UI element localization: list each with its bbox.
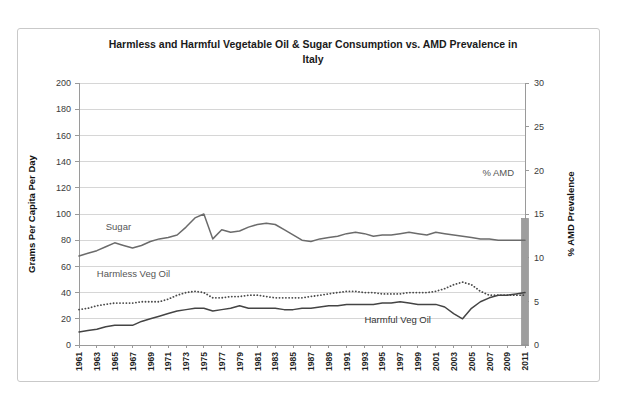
x-axis-tick-label: 1991 xyxy=(342,352,352,371)
y-axis-tick-label: 100 xyxy=(56,209,71,219)
x-axis-tick-label: 1977 xyxy=(217,352,227,371)
x-axis-tick-label: 1981 xyxy=(253,352,263,371)
x-axis-tick-label: 1989 xyxy=(324,352,334,371)
x-axis-tick-label: 1995 xyxy=(377,352,387,371)
x-axis-tick-label: 1985 xyxy=(288,352,298,371)
series-label-amd: % AMD xyxy=(482,167,514,178)
y-axis-tick-label: 60 xyxy=(61,262,71,272)
amd-bar xyxy=(522,218,529,345)
y-axis-tick-label: 0 xyxy=(66,340,71,350)
x-axis-tick-label: 1973 xyxy=(181,352,191,371)
x-axis-tick-label: 1999 xyxy=(413,352,423,371)
x-axis-tick-label: 1969 xyxy=(146,352,156,371)
series-label-harmless-veg-oil: Harmless Veg Oil xyxy=(97,268,170,279)
amd-prevalence-bar xyxy=(522,218,529,345)
y-axis-tick-label: 20 xyxy=(61,314,71,324)
y-axis-tick-label: 80 xyxy=(61,235,71,245)
chart-screenshot: Harmless and Harmful Vegetable Oil & Sug… xyxy=(0,0,617,405)
gridlines xyxy=(79,83,525,345)
x-axis-tick-label: 1967 xyxy=(128,352,138,371)
y-axis-tick-label: 160 xyxy=(56,131,71,141)
x-axis-tick-label: 2011 xyxy=(520,352,530,371)
x-axis-tick-label: 1979 xyxy=(235,352,245,371)
x-axis-tick-label: 1997 xyxy=(395,352,405,371)
series-label-sugar: Sugar xyxy=(106,221,131,232)
x-axis-tick-label: 1987 xyxy=(306,352,316,371)
x-axis-tick-label: 1971 xyxy=(163,352,173,371)
chart-frame: Harmless and Harmful Vegetable Oil & Sug… xyxy=(17,28,600,382)
y2-axis-tick-label: 10 xyxy=(534,253,544,263)
series-label-harmful-veg-oil: Harmful Veg Oil xyxy=(364,314,431,325)
y2-axis-tick-label: 25 xyxy=(534,122,544,132)
y-axis-tick-label: 140 xyxy=(56,157,71,167)
x-axis-tick-label: 2005 xyxy=(467,352,477,371)
x-axis-tick-label: 2009 xyxy=(502,352,512,371)
y2-axis-labels: 051015202530 xyxy=(534,78,544,350)
x-axis-tick-label: 1975 xyxy=(199,352,209,371)
x-axis-tick-label: 1983 xyxy=(270,352,280,371)
x-axis-tick-label: 2007 xyxy=(485,352,495,371)
y2-axis-title: % AMD Prevalence xyxy=(565,171,576,256)
series-line-harmless-veg-oil xyxy=(79,282,525,310)
y2-axis-tick-label: 20 xyxy=(534,166,544,176)
x-axis-tick-label: 2001 xyxy=(431,352,441,371)
y2-axis-tick-label: 5 xyxy=(534,297,539,307)
y-axis-tick-label: 180 xyxy=(56,104,71,114)
series-annotations: SugarHarmless Veg OilHarmful Veg Oil% AM… xyxy=(97,167,514,325)
x-axis-tick-label: 2003 xyxy=(449,352,459,371)
x-axis-tick-label: 1961 xyxy=(74,352,84,371)
x-axis-tick-label: 1993 xyxy=(360,352,370,371)
x-axis-tick-label: 1965 xyxy=(110,352,120,371)
chart-plot-area: 020406080100120140160180200 051015202530… xyxy=(18,29,601,383)
y-axis-labels: 020406080100120140160180200 xyxy=(56,78,71,350)
y-axis-tick-label: 40 xyxy=(61,288,71,298)
series-line-sugar xyxy=(79,214,525,256)
x-axis-labels: 1961196319651967196919711973197519771979… xyxy=(74,352,530,371)
y2-axis-tick-label: 15 xyxy=(534,209,544,219)
x-axis-tick-label: 1963 xyxy=(92,352,102,371)
y2-axis-tick-label: 30 xyxy=(534,78,544,88)
y-axis-tick-label: 120 xyxy=(56,183,71,193)
y-axis-tick-label: 200 xyxy=(56,78,71,88)
y-axis-title: Grams Per Capita Per Day xyxy=(26,154,37,272)
y2-axis-tick-label: 0 xyxy=(534,340,539,350)
